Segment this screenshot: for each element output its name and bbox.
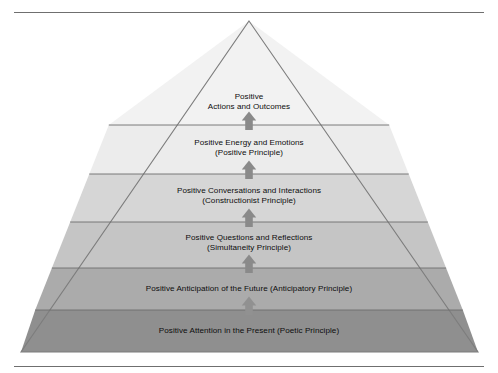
level-6-line1: Positive Attention in the Present (Poeti…	[159, 326, 339, 335]
pyramid-level-5-label: Positive Anticipation of the Future (Ant…	[0, 284, 498, 294]
level-1-line1: Positive	[235, 92, 264, 101]
pyramid-level-6-label: Positive Attention in the Present (Poeti…	[0, 326, 498, 336]
pyramid-diagram: Positive Actions and Outcomes Positive E…	[0, 0, 498, 373]
pyramid-level-2-label: Positive Energy and Emotions (Positive P…	[0, 138, 498, 158]
pyramid-level-3-label: Positive Conversations and Interactions …	[0, 186, 498, 206]
level-1-line2: Actions and Outcomes	[0, 102, 498, 112]
level-2-line1: Positive Energy and Emotions	[194, 138, 303, 147]
level-3-line2: (Constructionist Principle)	[0, 196, 498, 206]
level-5-line1: Positive Anticipation of the Future (Ant…	[146, 284, 352, 293]
pyramid-level-1-label: Positive Actions and Outcomes	[0, 92, 498, 112]
figure-container: Positive Actions and Outcomes Positive E…	[0, 0, 498, 373]
level-2-line2: (Positive Principle)	[0, 148, 498, 158]
pyramid-level-4-label: Positive Questions and Reflections (Simu…	[0, 233, 498, 253]
level-4-line1: Positive Questions and Reflections	[186, 233, 313, 242]
level-3-line1: Positive Conversations and Interactions	[177, 186, 321, 195]
level-4-line2: (Simultaneity Principle)	[0, 243, 498, 253]
